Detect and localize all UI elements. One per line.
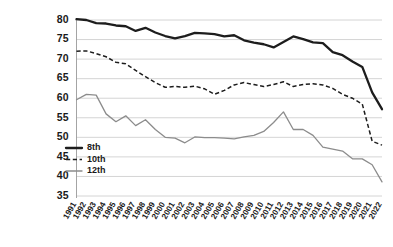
legend-label-12th: 12th bbox=[87, 165, 106, 175]
legend-label-10th: 10th bbox=[87, 154, 106, 164]
chart-legend: 8th10th12th bbox=[66, 142, 106, 175]
y-axis-tick-label: 70 bbox=[57, 52, 69, 64]
y-axis-tick-label: 55 bbox=[57, 111, 69, 123]
x-axis-tick-labels: 1991199219931994199519961997199819992000… bbox=[61, 200, 384, 221]
y-axis-tick-label: 75 bbox=[57, 32, 69, 44]
y-axis-tick-label: 60 bbox=[57, 91, 69, 103]
y-axis-tick-label: 65 bbox=[57, 71, 69, 83]
series-line-12th bbox=[77, 94, 383, 182]
y-axis-tick-labels: 80757065605550454035 bbox=[57, 13, 69, 201]
data-series-group bbox=[77, 19, 383, 182]
series-line-8th bbox=[77, 19, 383, 109]
legend-label-8th: 8th bbox=[87, 142, 101, 152]
line-chart: 80757065605550454035 1991199219931994199… bbox=[0, 0, 393, 247]
y-axis-tick-label: 50 bbox=[57, 130, 69, 142]
y-axis-tick-label: 35 bbox=[57, 189, 69, 201]
gridlines-group bbox=[77, 20, 383, 196]
chart-container: 80757065605550454035 1991199219931994199… bbox=[0, 0, 393, 247]
y-axis-tick-label: 80 bbox=[57, 13, 69, 25]
